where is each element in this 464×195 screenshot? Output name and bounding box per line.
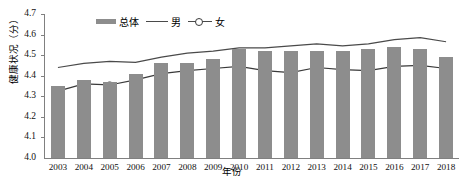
plot-area: 2003200420052006200720082009201020112012… (44, 14, 459, 159)
y-axis-tick-label: 4.0 (10, 153, 36, 163)
bar (387, 47, 401, 158)
y-axis-tickmark (41, 55, 45, 56)
bar (413, 49, 427, 158)
y-axis-tick-label: 4.6 (10, 30, 36, 40)
y-axis-tick-label: 4.7 (10, 9, 36, 19)
bar (77, 80, 91, 158)
bar (180, 63, 194, 158)
bar (258, 51, 272, 158)
y-axis-tickmark (41, 35, 45, 36)
bar (129, 74, 143, 158)
bar (361, 49, 375, 158)
bar (206, 59, 220, 158)
bar (310, 51, 324, 158)
y-axis-tickmark (41, 137, 45, 138)
y-axis-tickmark (41, 76, 45, 77)
y-axis-tick-label: 4.3 (10, 91, 36, 101)
bar (51, 86, 65, 158)
y-axis-tickmark (41, 96, 45, 97)
bar (232, 49, 246, 158)
y-axis-tick-label: 4.5 (10, 50, 36, 60)
y-axis-tickmark (41, 14, 45, 15)
health-status-chart: 健康状况（分） 4.04.14.24.34.44.54.64.7 总体男女 20… (0, 0, 464, 195)
bar (439, 57, 453, 158)
y-axis-tickmark (41, 117, 45, 118)
x-axis-title: 年份 (0, 164, 464, 178)
y-axis-tick-label: 4.1 (10, 132, 36, 142)
y-axis-tick-label: 4.4 (10, 71, 36, 81)
bar (154, 63, 168, 158)
y-axis-tick-label: 4.2 (10, 112, 36, 122)
bar (284, 51, 298, 158)
bar (336, 51, 350, 158)
bar (103, 82, 117, 158)
